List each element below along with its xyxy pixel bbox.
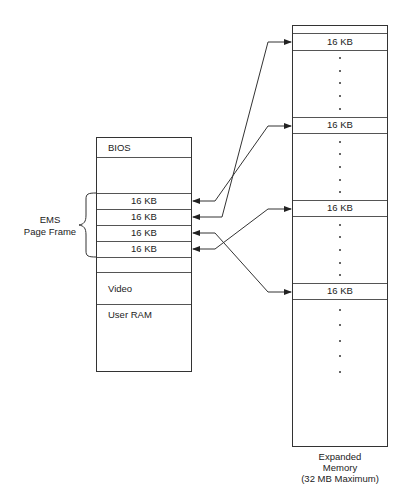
page-frame-brace-icon bbox=[79, 193, 96, 257]
page-slot-2-label: 16 KB bbox=[97, 211, 191, 223]
mapping-arrow-page4-to-slot3 bbox=[215, 233, 291, 292]
page-slot-4-label: 16 KB bbox=[97, 243, 191, 255]
exp-page-2-top bbox=[293, 117, 387, 118]
exp-page-1-top bbox=[293, 33, 387, 34]
page-frame-label-line2: Page Frame bbox=[20, 226, 80, 238]
expanded-page-1-label: 16 KB bbox=[293, 36, 387, 48]
divider-slot-3 bbox=[97, 241, 191, 242]
exp-page-4-top bbox=[293, 283, 387, 284]
expanded-page-2-label: 16 KB bbox=[293, 119, 387, 131]
exp-page-3-top bbox=[293, 200, 387, 201]
divider-video-bottom bbox=[97, 304, 191, 305]
mapping-arrow-page2-to-slot1 bbox=[215, 126, 291, 201]
video-label: Video bbox=[108, 283, 132, 295]
expanded-caption-line3: (32 MB Maximum) bbox=[285, 473, 395, 485]
divider-slot-1 bbox=[97, 209, 191, 210]
page-slot-1-label: 16 KB bbox=[97, 195, 191, 207]
divider-bios bbox=[97, 157, 191, 158]
divider-video-top bbox=[97, 272, 191, 273]
divider-page-frame-top bbox=[97, 193, 191, 194]
mapping-arrow-page1-to-slot2 bbox=[222, 42, 291, 217]
divider-page-frame-bottom bbox=[97, 257, 191, 258]
bios-label: BIOS bbox=[108, 142, 131, 154]
expanded-page-4-label: 16 KB bbox=[293, 285, 387, 297]
expanded-page-3-label: 16 KB bbox=[293, 202, 387, 214]
mapping-arrow-page3-to-slot4 bbox=[215, 209, 291, 249]
exp-page-1-bottom bbox=[293, 50, 387, 51]
exp-page-3-bottom bbox=[293, 216, 387, 217]
page-slot-3-label: 16 KB bbox=[97, 227, 191, 239]
exp-page-2-bottom bbox=[293, 133, 387, 134]
divider-slot-2 bbox=[97, 225, 191, 226]
exp-page-4-bottom bbox=[293, 299, 387, 300]
user-ram-label: User RAM bbox=[108, 309, 152, 321]
page-frame-label-line1: EMS bbox=[20, 214, 80, 226]
